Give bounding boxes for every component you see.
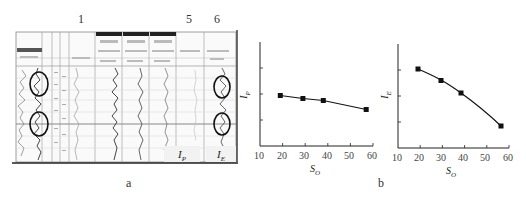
x-tick-10: 10 xyxy=(254,150,264,161)
x-axis-label: SO xyxy=(310,163,320,177)
x-tick-40: 40 xyxy=(458,152,468,163)
chart-ie-vs-so: 10 20 30 40 50 60 SO IE xyxy=(380,0,526,198)
x-tick-40: 40 xyxy=(322,150,332,161)
x-tick-20: 20 xyxy=(277,150,287,161)
well-log-graphic xyxy=(0,0,250,198)
panel-b-label: b xyxy=(378,176,384,191)
curve-label-ie: IE xyxy=(217,148,225,163)
track-number-6: 6 xyxy=(214,12,220,27)
well-log-panel: 1 5 6 IP IE a xyxy=(0,0,250,198)
x-tick-60: 60 xyxy=(367,150,377,161)
x-tick-60: 60 xyxy=(503,152,513,163)
x-tick-30: 30 xyxy=(299,150,309,161)
y-axis-label: IP xyxy=(238,91,252,99)
track-number-1: 1 xyxy=(78,12,84,27)
x-axis-label: SO xyxy=(446,165,456,179)
x-tick-10: 10 xyxy=(392,152,402,163)
x-tick-30: 30 xyxy=(436,152,446,163)
x-tick-20: 20 xyxy=(414,152,424,163)
panel-a-label: a xyxy=(126,176,131,191)
x-tick-50: 50 xyxy=(344,150,354,161)
track-number-5: 5 xyxy=(186,12,192,27)
y-axis-label: IE xyxy=(379,91,393,99)
curve-label-ip: IP xyxy=(178,148,186,163)
chart-ip-vs-so: 10 20 30 40 50 60 SO IP xyxy=(240,0,385,198)
x-tick-50: 50 xyxy=(480,152,490,163)
